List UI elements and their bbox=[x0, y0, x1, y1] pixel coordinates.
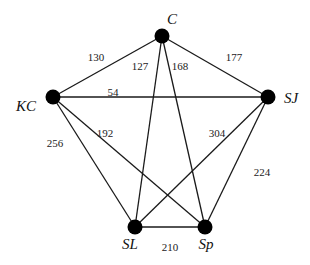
node-label-sj: SJ bbox=[284, 90, 300, 106]
edge-sj-sp bbox=[205, 97, 268, 227]
node-label-kc: KC bbox=[15, 98, 37, 114]
node-c bbox=[155, 29, 170, 44]
node-label-c: C bbox=[167, 11, 178, 27]
edge-kc-sl bbox=[53, 97, 135, 227]
node-label-sl: SL bbox=[122, 236, 138, 252]
edge-weight-label: 127 bbox=[132, 60, 149, 72]
edge-kc-sp bbox=[53, 97, 205, 227]
edge-weight-label: 224 bbox=[254, 166, 271, 178]
edge-weight-label: 256 bbox=[47, 137, 64, 149]
edge-weight-label: 130 bbox=[88, 51, 105, 63]
edge-weight-label: 192 bbox=[97, 127, 114, 139]
node-kc bbox=[46, 90, 61, 105]
node-sl bbox=[128, 220, 143, 235]
edge-weight-label: 177 bbox=[226, 51, 243, 63]
node-labels-group: CKCSJSLSp bbox=[15, 11, 299, 252]
edge-sj-sl bbox=[135, 97, 268, 227]
node-sj bbox=[261, 90, 276, 105]
edge-weight-label: 210 bbox=[162, 241, 179, 253]
edge-weight-label: 304 bbox=[209, 127, 226, 139]
edge-weight-label: 168 bbox=[172, 60, 189, 72]
node-label-sp: Sp bbox=[199, 236, 215, 252]
weighted-complete-graph: 13017712716854256192304224210 CKCSJSLSp bbox=[0, 0, 310, 265]
node-sp bbox=[198, 220, 213, 235]
edge-weight-label: 54 bbox=[108, 86, 120, 98]
edges-group bbox=[53, 36, 268, 227]
